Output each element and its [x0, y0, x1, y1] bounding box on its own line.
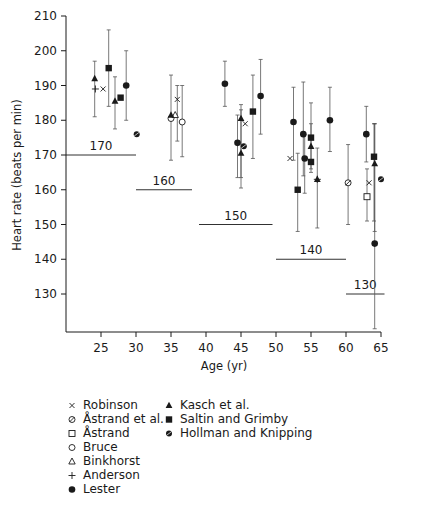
reference-line-label: 170 — [90, 139, 113, 153]
data-point — [257, 93, 264, 100]
x-tick-label: 35 — [163, 341, 178, 355]
data-point — [300, 131, 307, 138]
filled-circle-marker-icon — [66, 483, 78, 495]
filled-triangle-marker-icon — [238, 115, 245, 121]
reference-line-label: 160 — [153, 174, 176, 188]
y-tick-label: 140 — [34, 252, 57, 266]
legend-label: Robinson — [83, 398, 138, 412]
legend-column-2: Kasch et al.Saltin and GrimbyHollman and… — [163, 398, 313, 440]
y-tick-label: 180 — [34, 113, 57, 127]
filled-triangle-marker-icon — [112, 97, 119, 103]
filled-square-marker-icon — [308, 159, 314, 165]
data-point — [117, 94, 123, 100]
filled-circle-marker-icon — [371, 240, 378, 247]
x-tick-label: 25 — [93, 341, 108, 355]
circle-slash-marker-icon — [66, 413, 78, 425]
data-point — [234, 140, 241, 147]
x-tick-label: 45 — [233, 341, 248, 355]
filled-triangle-marker-icon — [371, 160, 378, 166]
filled-triangle-marker-icon — [308, 143, 315, 149]
data-point — [290, 119, 297, 126]
legend-item: Robinson — [66, 398, 164, 412]
y-tick-label: 160 — [34, 183, 57, 197]
y-tick-label: 130 — [34, 287, 57, 301]
y-tick-label: 150 — [34, 218, 57, 232]
x-tick-label: 55 — [303, 341, 318, 355]
data-point — [123, 82, 130, 89]
data-point — [243, 121, 248, 126]
legend-label: Lester — [83, 482, 120, 496]
filled-square-marker-icon — [308, 134, 314, 140]
plus-marker-icon — [92, 85, 99, 92]
filled-triangle-marker-icon — [314, 176, 321, 182]
filled-square-marker-icon — [117, 94, 123, 100]
filled-square-marker-icon — [163, 413, 175, 425]
open-square-marker-icon — [364, 194, 370, 200]
data-point — [250, 108, 256, 114]
filled-square-marker-icon — [106, 65, 112, 71]
data-point — [295, 187, 301, 193]
data-point — [308, 159, 314, 165]
data-point — [371, 160, 378, 166]
y-tick-label: 210 — [34, 9, 57, 23]
x-tick-label: 40 — [198, 341, 213, 355]
x-tick-label: 30 — [128, 341, 143, 355]
filled-square-marker-shape — [166, 416, 172, 422]
open-triangle-marker-icon — [66, 455, 78, 467]
filled-circle-marker-icon — [327, 117, 334, 124]
filled-square-marker-icon — [250, 108, 256, 114]
data-point — [112, 97, 119, 103]
legend-label: Saltin and Grimby — [180, 412, 288, 426]
legend-item: Lester — [66, 482, 164, 496]
filled-circle-marker-shape — [69, 486, 76, 493]
x-tick-label: 60 — [338, 341, 353, 355]
data-point — [314, 176, 321, 182]
data-point — [106, 65, 112, 71]
x-axis-title: Age (yr) — [201, 359, 247, 373]
legend-label: Binkhorst — [83, 454, 140, 468]
open-triangle-marker-shape — [69, 458, 75, 464]
reference-line-label: 130 — [354, 278, 377, 292]
data-point — [327, 117, 334, 124]
data-point — [134, 131, 140, 137]
legend: RobinsonÅstrand et al.ÅstrandBruceBinkho… — [66, 398, 386, 488]
open-square-marker-shape — [69, 431, 75, 437]
plus-marker-shape — [69, 472, 76, 479]
open-circle-marker-icon — [179, 119, 185, 125]
legend-label: Kasch et al. — [180, 398, 250, 412]
data-point — [308, 143, 315, 149]
filled-octagon-marker-icon — [163, 427, 175, 439]
filled-circle-marker-icon — [123, 82, 130, 89]
y-tick-label: 190 — [34, 79, 57, 93]
data-point — [371, 240, 378, 247]
x-tick-label: 50 — [268, 341, 283, 355]
filled-square-marker-icon — [371, 154, 377, 160]
data-point — [238, 115, 245, 121]
filled-circle-marker-icon — [363, 131, 370, 138]
x-marker-icon — [288, 156, 293, 161]
legend-item: Binkhorst — [66, 454, 164, 468]
legend-item: Åstrand — [66, 426, 164, 440]
data-point — [371, 154, 377, 160]
legend-label: Bruce — [83, 440, 118, 454]
filled-circle-marker-icon — [234, 140, 241, 147]
plus-marker-icon — [66, 469, 78, 481]
reference-lines: 170160150140130 — [66, 139, 385, 294]
data-point — [238, 149, 245, 155]
data-point — [288, 156, 293, 161]
legend-item: Hollman and Knipping — [163, 426, 313, 440]
legend-column-1: RobinsonÅstrand et al.ÅstrandBruceBinkho… — [66, 398, 164, 496]
legend-label: Hollman and Knipping — [180, 426, 313, 440]
data-point — [363, 131, 370, 138]
filled-triangle-marker-shape — [166, 402, 173, 408]
data-point — [92, 85, 99, 92]
x-marker-shape — [70, 403, 75, 408]
legend-label: Åstrand et al. — [83, 412, 164, 426]
filled-square-marker-icon — [295, 187, 301, 193]
y-tick-label: 170 — [34, 148, 57, 162]
y-axis-title: Heart rate (beats per min) — [10, 99, 24, 251]
filled-circle-marker-icon — [257, 93, 264, 100]
data-point — [308, 134, 314, 140]
legend-item: Saltin and Grimby — [163, 412, 313, 426]
filled-triangle-marker-icon — [238, 149, 245, 155]
